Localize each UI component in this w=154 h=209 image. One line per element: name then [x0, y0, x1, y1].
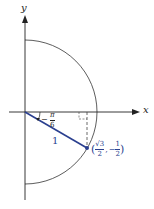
angle-numerator: π: [50, 112, 55, 119]
separator: ,: [105, 145, 108, 154]
x-axis-label: x: [143, 105, 149, 115]
right-angle-marker: [79, 112, 87, 119]
angle-denominator: 6: [50, 122, 54, 129]
radius-label: 1: [52, 136, 58, 146]
point-marker: [85, 146, 89, 150]
point-x-fraction: √3 2: [95, 141, 104, 158]
point-y-sign: −: [109, 145, 116, 154]
point-x-denominator: 2: [98, 151, 102, 158]
paren-close: ): [120, 143, 124, 156]
point-x-numerator: √3: [95, 141, 104, 148]
x-axis-arrow-icon: [132, 109, 140, 115]
point-label: ( √3 2 , − 1 2 ): [91, 141, 124, 158]
y-axis-arrow-icon: [22, 15, 28, 23]
angle-fraction: π 6: [50, 112, 55, 129]
angle-sign: −: [41, 116, 48, 124]
unit-circle-diagram: [0, 0, 154, 209]
y-axis-label: y: [21, 3, 27, 13]
